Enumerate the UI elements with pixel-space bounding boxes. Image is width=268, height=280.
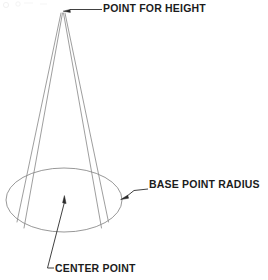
label-center-point: CENTER POINT: [55, 263, 136, 274]
leader-base-point-radius: [121, 189, 148, 200]
label-point-for-height: POINT FOR HEIGHT: [103, 3, 206, 14]
cone-edge-right-outer: [65, 13, 109, 222]
cone-edge-right-inner: [64, 13, 102, 228]
cone-side-lines: [17, 13, 109, 228]
leader-point-for-height: [63, 10, 102, 13]
scan-artifacts: [3, 2, 47, 8]
cone-edge-left-outer: [17, 13, 61, 222]
cone-edge-left-inner: [24, 13, 63, 228]
label-base-point-radius: BASE POINT RADIUS: [149, 179, 260, 190]
cone-drawing-canvas: [0, 0, 268, 280]
cone-diagram-figure: POINT FOR HEIGHT BASE POINT RADIUS CENTE…: [0, 0, 268, 280]
